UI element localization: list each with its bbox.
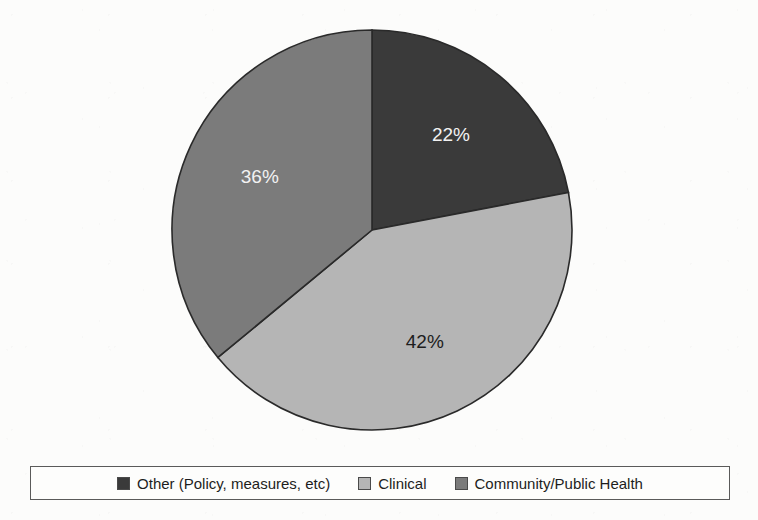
pie-chart-svg: 22%42%36% [170, 28, 574, 432]
legend-item-other[interactable]: Other (Policy, measures, etc) [103, 476, 344, 491]
pie-slice-label: 22% [432, 124, 470, 145]
pie-chart-plot-area: 22%42%36% [170, 28, 574, 432]
pie-chart-figure: 22%42%36% [0, 0, 758, 455]
pie-slice-label: 42% [406, 331, 444, 352]
legend-swatch-clinical-icon [358, 477, 371, 490]
legend-label-other: Other (Policy, measures, etc) [137, 476, 330, 491]
legend-swatch-other-icon [117, 477, 130, 490]
legend-label-community: Community/Public Health [475, 476, 643, 491]
legend-swatch-community-icon [455, 477, 468, 490]
legend-label-clinical: Clinical [378, 476, 426, 491]
legend-item-community[interactable]: Community/Public Health [441, 476, 657, 491]
chart-page: 22%42%36% Other (Policy, measures, etc) … [0, 0, 758, 520]
pie-slice-label: 36% [241, 166, 279, 187]
pie-slice-group [172, 30, 572, 430]
chart-legend: Other (Policy, measures, etc) Clinical C… [30, 466, 730, 500]
legend-item-clinical[interactable]: Clinical [344, 476, 440, 491]
